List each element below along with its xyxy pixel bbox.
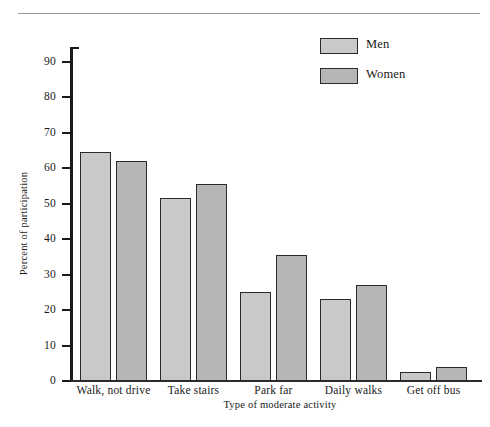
bar-women-3 bbox=[356, 285, 387, 381]
bar-men-4 bbox=[400, 372, 431, 381]
bar-women-1 bbox=[196, 184, 227, 381]
bar-men-1 bbox=[160, 198, 191, 381]
y-tick-30 bbox=[62, 274, 70, 276]
bar-men-0 bbox=[80, 152, 111, 381]
legend-label-men: Men bbox=[366, 37, 390, 52]
y-tick-60 bbox=[62, 167, 70, 169]
y-tick-70 bbox=[62, 132, 70, 134]
y-tick-50 bbox=[62, 203, 70, 205]
y-tick-80 bbox=[62, 96, 70, 98]
y-tick-label-90: 90 bbox=[14, 55, 56, 67]
bar-women-4 bbox=[436, 367, 467, 381]
y-tick-20 bbox=[62, 309, 70, 311]
y-axis-top-cap bbox=[70, 47, 79, 49]
x-axis-title: Type of moderate activity bbox=[140, 399, 420, 410]
chart-legend: Men Women bbox=[320, 36, 470, 96]
y-tick-90 bbox=[62, 61, 70, 63]
y-tick-0 bbox=[62, 380, 70, 382]
y-tick-label-0: 0 bbox=[14, 374, 56, 386]
y-tick-label-10: 10 bbox=[14, 339, 56, 351]
bar-women-0 bbox=[116, 161, 147, 381]
legend-swatch-women bbox=[320, 68, 358, 84]
y-tick-10 bbox=[62, 345, 70, 347]
y-axis-line bbox=[70, 47, 73, 382]
category-label-4: Get off bus bbox=[374, 384, 490, 396]
legend-label-women: Women bbox=[366, 67, 406, 82]
legend-swatch-men bbox=[320, 38, 358, 54]
y-axis-title: Percent of participation bbox=[18, 134, 29, 314]
bar-women-2 bbox=[276, 255, 307, 381]
figure-canvas: 0102030405060708090 Percent of participa… bbox=[0, 0, 490, 427]
y-tick-label-80: 80 bbox=[14, 90, 56, 102]
legend-item-women: Women bbox=[320, 66, 470, 96]
bar-men-3 bbox=[320, 299, 351, 381]
bar-men-2 bbox=[240, 292, 271, 381]
legend-item-men: Men bbox=[320, 36, 470, 66]
y-tick-40 bbox=[62, 238, 70, 240]
